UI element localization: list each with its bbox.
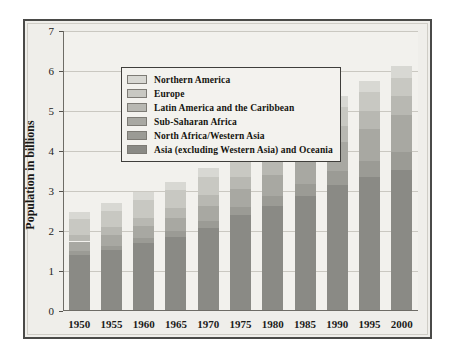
bar-segment bbox=[165, 208, 186, 218]
x-tick-label: 1955 bbox=[95, 318, 127, 330]
bar-segment bbox=[198, 168, 219, 177]
x-tick-label: 1980 bbox=[257, 318, 289, 330]
bar-segment bbox=[133, 243, 154, 310]
legend-item: Northern America bbox=[127, 73, 333, 86]
bar-1995 bbox=[359, 81, 380, 310]
legend-item: Asia (excluding Western Asia) and Oceani… bbox=[127, 143, 333, 156]
y-tick-label: 7 bbox=[34, 25, 54, 37]
legend-label: Asia (excluding Western Asia) and Oceani… bbox=[154, 145, 333, 155]
bar-segment bbox=[391, 78, 412, 96]
legend-swatch-icon bbox=[127, 89, 147, 98]
bar-segment bbox=[262, 175, 283, 196]
bar-segment bbox=[165, 190, 186, 208]
y-tick-label: 2 bbox=[34, 225, 54, 237]
bar-segment bbox=[262, 161, 283, 175]
y-tick-mark bbox=[59, 311, 63, 312]
bar-segment bbox=[133, 226, 154, 238]
bar-segment bbox=[101, 211, 122, 228]
bar-segment bbox=[230, 215, 251, 310]
bar-segment bbox=[198, 228, 219, 310]
bar-segment bbox=[359, 111, 380, 129]
bar-2000 bbox=[391, 66, 412, 310]
bar-1955 bbox=[101, 203, 122, 310]
bar-segment bbox=[327, 171, 348, 185]
bar-segment bbox=[69, 255, 90, 310]
bar-segment bbox=[69, 235, 90, 242]
bar-segment bbox=[391, 66, 412, 77]
bar-segment bbox=[69, 219, 90, 235]
x-tick-label: 2000 bbox=[386, 318, 418, 330]
y-tick-label: 1 bbox=[34, 265, 54, 277]
bar-1960 bbox=[133, 192, 154, 310]
legend-swatch-icon bbox=[127, 131, 147, 140]
y-axis-line bbox=[63, 31, 64, 311]
bar-segment bbox=[69, 212, 90, 219]
bar-1965 bbox=[165, 182, 186, 310]
bar-segment bbox=[391, 96, 412, 115]
bar-segment bbox=[391, 115, 412, 152]
bar-segment bbox=[198, 195, 219, 206]
y-tick-label: 0 bbox=[34, 305, 54, 317]
legend-label: Europe bbox=[154, 89, 185, 99]
bar-segment bbox=[295, 196, 316, 310]
y-tick-label: 4 bbox=[34, 145, 54, 157]
bar-segment bbox=[165, 182, 186, 190]
plot-area: 01234567 1950195519601965197019751980198… bbox=[63, 31, 418, 311]
bar-segment bbox=[295, 184, 316, 196]
bar-segment bbox=[262, 206, 283, 310]
x-tick-label: 1985 bbox=[289, 318, 321, 330]
bar-segment bbox=[101, 250, 122, 310]
bar-segment bbox=[198, 206, 219, 221]
legend-swatch-icon bbox=[127, 117, 147, 126]
legend-swatch-icon bbox=[127, 103, 147, 112]
legend-label: Sub-Saharan Africa bbox=[154, 117, 237, 127]
bar-segment bbox=[69, 242, 90, 252]
x-tick-label: 1960 bbox=[128, 318, 160, 330]
bar-segment bbox=[359, 177, 380, 310]
bar-segment bbox=[359, 81, 380, 92]
x-tick-label: 1965 bbox=[160, 318, 192, 330]
bar-segment bbox=[230, 177, 251, 190]
x-tick-label: 1995 bbox=[353, 318, 385, 330]
bar-segment bbox=[391, 170, 412, 310]
legend-item: North Africa/Western Asia bbox=[127, 129, 333, 142]
bar-segment bbox=[262, 196, 283, 206]
bar-segment bbox=[327, 185, 348, 310]
legend-label: Latin America and the Caribbean bbox=[154, 103, 294, 113]
bar-segment bbox=[165, 218, 186, 231]
bar-segment bbox=[69, 251, 90, 255]
bar-segment bbox=[165, 237, 186, 310]
chart-legend: Northern AmericaEuropeLatin America and … bbox=[121, 67, 341, 162]
y-tick-label: 5 bbox=[34, 105, 54, 117]
x-tick-label: 1970 bbox=[192, 318, 224, 330]
legend-swatch-icon bbox=[127, 145, 147, 154]
legend-swatch-icon bbox=[127, 75, 147, 84]
bar-segment bbox=[101, 203, 122, 211]
bar-segment bbox=[295, 159, 316, 184]
bar-segment bbox=[133, 238, 154, 243]
bar-segment bbox=[230, 189, 251, 207]
gridline bbox=[63, 31, 418, 32]
x-tick-label: 1950 bbox=[63, 318, 95, 330]
legend-item: Sub-Saharan Africa bbox=[127, 115, 333, 128]
bar-1950 bbox=[69, 212, 90, 310]
bar-segment bbox=[198, 221, 219, 228]
legend-label: Northern America bbox=[154, 75, 230, 85]
y-axis-title: Population in billions bbox=[23, 120, 38, 229]
chart-figure: Population in billions 01234567 19501955… bbox=[0, 0, 451, 356]
bar-segment bbox=[359, 92, 380, 110]
bar-segment bbox=[101, 227, 122, 235]
bar-segment bbox=[359, 161, 380, 177]
x-tick-label: 1975 bbox=[224, 318, 256, 330]
bar-1970 bbox=[198, 168, 219, 310]
bar-segment bbox=[198, 177, 219, 195]
bar-segment bbox=[133, 218, 154, 227]
legend-item: Europe bbox=[127, 87, 333, 100]
bar-segment bbox=[101, 235, 122, 246]
bar-segment bbox=[391, 152, 412, 171]
legend-label: North Africa/Western Asia bbox=[154, 131, 265, 141]
bar-segment bbox=[359, 129, 380, 161]
x-tick-label: 1990 bbox=[321, 318, 353, 330]
y-tick-label: 6 bbox=[34, 65, 54, 77]
y-tick-label: 3 bbox=[34, 185, 54, 197]
